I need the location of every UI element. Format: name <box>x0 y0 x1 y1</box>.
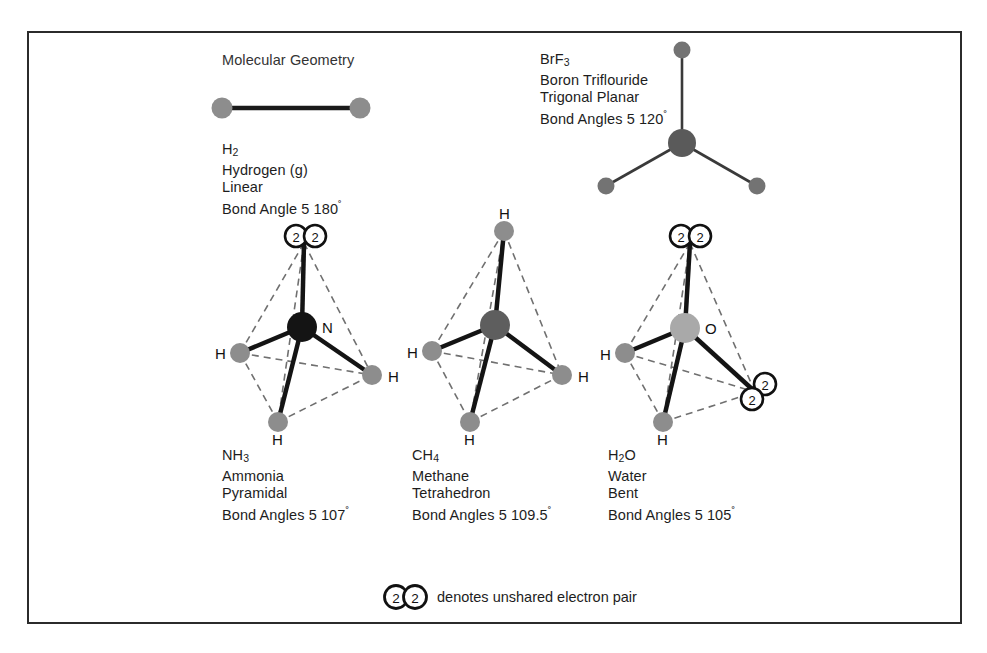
caption-h2o-name: Water <box>608 468 735 486</box>
h2o-top-electron-pair-digit-1: 2 <box>677 230 684 245</box>
legend-electron-pair-glyph: 2 2 <box>385 586 427 609</box>
ch4-atom-hydrogen-top <box>494 221 514 241</box>
ch4-atom-carbon <box>480 310 510 340</box>
nh3-label-hydrogen-right: H <box>388 368 399 385</box>
caption-h2-angle: Bond Angle 5 180˚ <box>222 197 342 218</box>
molecule-ch4 <box>422 221 572 432</box>
h2o-atom-hydrogen-bottom <box>653 412 673 432</box>
nh3-atom-hydrogen-right <box>362 365 382 385</box>
brf3-atom-fluorine-lower-left <box>598 178 615 195</box>
caption-h2-formula: H2 <box>222 141 342 162</box>
caption-h2: H2 Hydrogen (g) Linear Bond Angle 5 180˚ <box>222 141 342 218</box>
caption-ch4-name: Methane <box>412 468 552 486</box>
caption-ch4-angle: Bond Angles 5 109.5˚ <box>412 503 552 524</box>
caption-h2o-shape: Bent <box>608 485 735 503</box>
nh3-atom-hydrogen-bottom <box>268 412 288 432</box>
caption-nh3-shape: Pyramidal <box>222 485 349 503</box>
h2-atom-left <box>212 98 233 119</box>
caption-ch4-formula: CH4 <box>412 447 552 468</box>
molecule-nh3: 2 2 <box>230 225 382 432</box>
h2o-unshared-electron-pair-right: 2 2 <box>741 373 776 410</box>
caption-brf3-formula: BrF3 <box>540 51 667 72</box>
caption-brf3: BrF3 Boron Triflouride Trigonal Planar B… <box>540 51 667 128</box>
page-title: Molecular Geometry <box>222 52 354 68</box>
h2o-top-electron-pair-digit-2: 2 <box>696 230 703 245</box>
caption-nh3-formula: NH3 <box>222 447 349 468</box>
nh3-atom-nitrogen <box>287 312 317 342</box>
nh3-electron-pair-digit-2: 2 <box>311 230 318 245</box>
h2o-right-electron-pair-digit-2: 2 <box>748 393 755 408</box>
ch4-bond-h-bottom <box>470 325 495 422</box>
ch4-label-hydrogen-right: H <box>578 368 589 385</box>
caption-nh3: NH3 Ammonia Pyramidal Bond Angles 5 107˚ <box>222 447 349 524</box>
caption-h2-name: Hydrogen (g) <box>222 162 342 180</box>
molecular-geometry-artwork: 2 2 <box>0 0 987 653</box>
caption-ch4-shape: Tetrahedron <box>412 485 552 503</box>
h2o-label-hydrogen-left: H <box>600 346 611 363</box>
h2o-right-electron-pair-digit-1: 2 <box>761 378 768 393</box>
ch4-label-hydrogen-bottom: H <box>464 431 475 448</box>
h2o-atom-hydrogen-left <box>615 343 635 363</box>
molecule-h2 <box>212 98 371 119</box>
brf3-atom-fluorine-lower-right <box>749 178 766 195</box>
caption-brf3-name: Boron Triflouride <box>540 72 667 90</box>
caption-h2o: H2O Water Bent Bond Angles 5 105˚ <box>608 447 735 524</box>
caption-nh3-angle: Bond Angles 5 107˚ <box>222 503 349 524</box>
h2o-atom-oxygen <box>670 313 700 343</box>
legend-digit-2: 2 <box>411 591 419 606</box>
nh3-atom-hydrogen-left <box>230 343 250 363</box>
nh3-unshared-electron-pair: 2 2 <box>285 225 326 247</box>
nh3-label-hydrogen-bottom: H <box>272 431 283 448</box>
caption-ch4: CH4 Methane Tetrahedron Bond Angles 5 10… <box>412 447 552 524</box>
ch4-label-hydrogen-left: H <box>407 344 418 361</box>
molecule-h2o: 2 2 2 2 <box>615 225 776 432</box>
diagram-page: 2 2 <box>0 0 987 653</box>
h2o-label-hydrogen-bottom: H <box>657 431 668 448</box>
h2-atom-right <box>350 98 371 119</box>
caption-h2o-formula: H2O <box>608 447 735 468</box>
caption-h2o-angle: Bond Angles 5 105˚ <box>608 503 735 524</box>
brf3-atom-center-boron <box>668 129 696 157</box>
ch4-label-hydrogen-top: H <box>499 205 510 222</box>
brf3-atom-fluorine-top <box>674 42 691 59</box>
h2o-label-oxygen: O <box>705 320 717 337</box>
legend-text: denotes unshared electron pair <box>437 589 637 605</box>
nh3-electron-pair-digit-1: 2 <box>292 230 299 245</box>
h2o-unshared-electron-pair-top: 2 2 <box>670 225 711 247</box>
caption-brf3-angle: Bond Angles 5 120˚ <box>540 107 667 128</box>
ch4-atom-hydrogen-left <box>422 341 442 361</box>
caption-nh3-name: Ammonia <box>222 468 349 486</box>
legend-digit-1: 2 <box>392 591 400 606</box>
caption-brf3-shape: Trigonal Planar <box>540 89 667 107</box>
ch4-atom-hydrogen-right <box>552 365 572 385</box>
caption-h2-shape: Linear <box>222 179 342 197</box>
ch4-atom-hydrogen-bottom <box>460 412 480 432</box>
nh3-label-hydrogen-left: H <box>215 345 226 362</box>
nh3-label-nitrogen: N <box>322 319 333 336</box>
